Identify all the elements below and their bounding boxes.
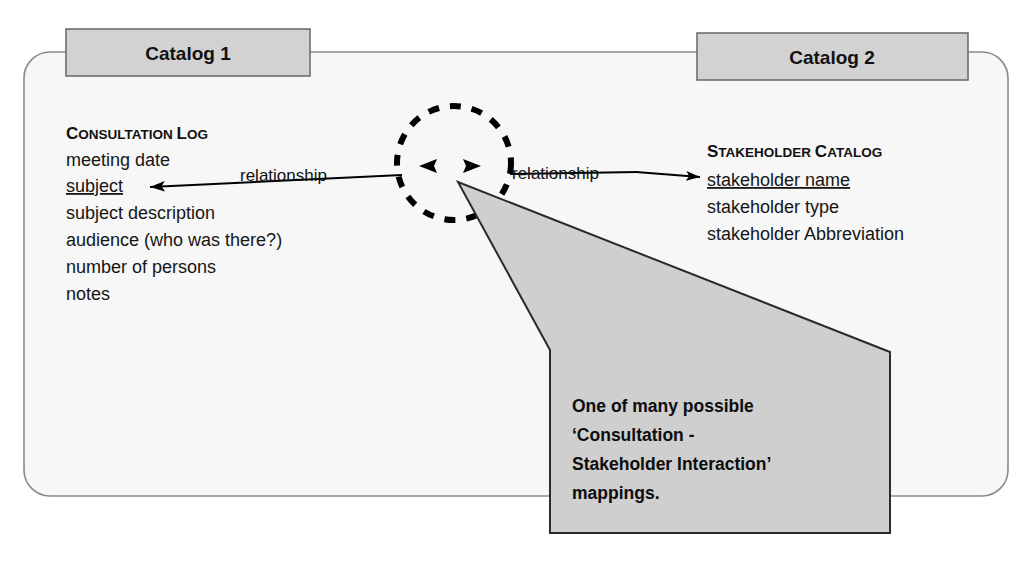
relationship-right-label: relationship — [512, 164, 599, 183]
entity-title-cap-l: L — [177, 124, 187, 143]
entity-title2-rest-1: TAKEHOLDER — [718, 145, 811, 160]
attr-subject-description: subject description — [66, 203, 215, 223]
attr-number-of-persons: number of persons — [66, 257, 216, 277]
attr-stakeholder-abbreviation: stakeholder Abbreviation — [707, 224, 904, 244]
diagram-canvas: Catalog 1 Catalog 2 CONSULTATION LOG mee… — [0, 0, 1031, 562]
tab-catalog-1-label: Catalog 1 — [145, 43, 231, 64]
entity-title2-rest-2: ATALOG — [827, 145, 882, 160]
entity-title-rest-2: OG — [187, 127, 208, 142]
relationship-left-label: relationship — [240, 166, 327, 185]
attr-stakeholder-type: stakeholder type — [707, 197, 839, 217]
attr-audience: audience (who was there?) — [66, 230, 282, 250]
entity-consultation-log-title: CONSULTATION LOG — [66, 124, 208, 143]
entity-title-cap-c2: C — [815, 142, 827, 161]
catalog-relationship-diagram: Catalog 1 Catalog 2 CONSULTATION LOG mee… — [0, 0, 1031, 562]
tab-catalog-1[interactable]: Catalog 1 — [66, 29, 310, 76]
attr-notes: notes — [66, 284, 110, 304]
entity-title-cap-c: C — [66, 124, 78, 143]
attr-stakeholder-name: stakeholder name — [707, 170, 850, 190]
entity-stakeholder-catalog-title: STAKEHOLDER CATALOG — [707, 142, 882, 161]
callout-line-2: ‘Consultation - — [572, 425, 695, 445]
entity-title-cap-s: S — [707, 142, 718, 161]
tab-catalog-2[interactable]: Catalog 2 — [697, 33, 968, 80]
entity-title-rest-1: ONSULTATION — [78, 127, 173, 142]
attr-meeting-date: meeting date — [66, 150, 170, 170]
attr-subject: subject — [66, 176, 123, 196]
callout-line-4: mappings. — [572, 483, 660, 503]
tab-catalog-2-label: Catalog 2 — [789, 47, 875, 68]
callout-line-3: Stakeholder Interaction’ — [572, 454, 771, 474]
callout-line-1: One of many possible — [572, 396, 754, 416]
